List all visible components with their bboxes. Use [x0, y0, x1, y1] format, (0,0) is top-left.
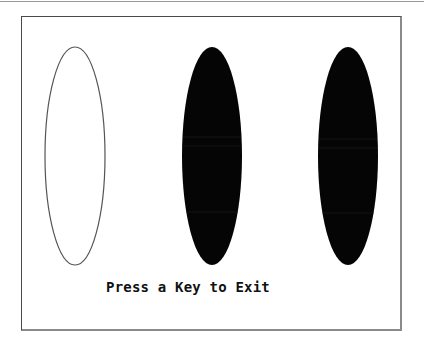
- ellipse-filled-right: [318, 47, 378, 265]
- ellipse-outline: [45, 47, 105, 265]
- ellipse-filled-middle: [182, 47, 242, 265]
- exit-prompt-text: Press a Key to Exit: [106, 278, 292, 296]
